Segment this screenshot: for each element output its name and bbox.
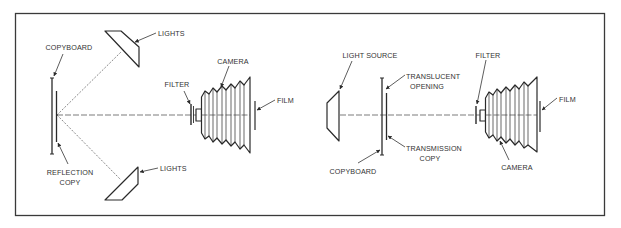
- label-reflection-line2: COPY: [60, 178, 81, 187]
- light-source: [327, 91, 339, 141]
- label-film-right: FILM: [559, 95, 576, 104]
- lens-left: [196, 109, 202, 121]
- leader-translucent-opening: [386, 75, 405, 89]
- label-transmission-line2: COPY: [420, 154, 441, 163]
- leader-camera-left: [221, 66, 229, 87]
- copy-setup-diagram: COPYBOARD LIGHTS LIGHTS CAMERA FILTER FI…: [0, 0, 621, 228]
- label-copyboard-left: COPYBOARD: [46, 43, 93, 52]
- label-camera-left: CAMERA: [217, 57, 248, 66]
- label-lights-top: LIGHTS: [158, 29, 185, 38]
- copyboard-right: [380, 78, 384, 155]
- label-copyboard-right: COPYBOARD: [330, 167, 377, 176]
- label-filter-right: FILTER: [476, 51, 501, 60]
- label-transmission-line1: TRANSMISSION: [406, 144, 462, 153]
- label-translucent-line1: TRANSLUCENT: [406, 72, 461, 81]
- leader-film-right: [542, 98, 557, 110]
- label-reflection-line1: REFLECTION: [47, 168, 94, 177]
- camera-right: [476, 77, 540, 152]
- leader-copyboard-right: [358, 150, 380, 163]
- label-film-left: FILM: [277, 96, 294, 105]
- leader-light-source: [340, 61, 352, 89]
- label-translucent-line2: OPENING: [410, 82, 444, 91]
- leader-lights-top: [135, 33, 156, 42]
- reflection-setup: COPYBOARD LIGHTS LIGHTS CAMERA FILTER FI…: [46, 29, 294, 200]
- light-beam-top: [57, 52, 121, 115]
- label-camera-right: CAMERA: [501, 163, 532, 172]
- label-filter-left: FILTER: [165, 80, 190, 89]
- label-lights-bottom: LIGHTS: [160, 164, 187, 173]
- leader-reflection-copy: [58, 143, 68, 164]
- leader-filter-left: [184, 91, 190, 104]
- leader-filter-right: [477, 60, 486, 104]
- leader-transmission-copy: [388, 136, 405, 147]
- leader-copyboard-left: [54, 54, 63, 76]
- leader-film-left: [257, 100, 275, 110]
- leader-lights-bottom: [140, 168, 158, 172]
- label-light-source: LIGHT SOURCE: [343, 51, 398, 60]
- camera-left: [191, 77, 255, 153]
- lights-top: [105, 31, 139, 67]
- transmission-setup: LIGHT SOURCE TRANSLUCENT OPENING TRANSMI…: [327, 51, 576, 176]
- lens-right: [480, 110, 486, 121]
- copyboard-left: [50, 78, 54, 154]
- lights-bottom: [105, 167, 138, 200]
- leader-camera-right: [500, 141, 509, 160]
